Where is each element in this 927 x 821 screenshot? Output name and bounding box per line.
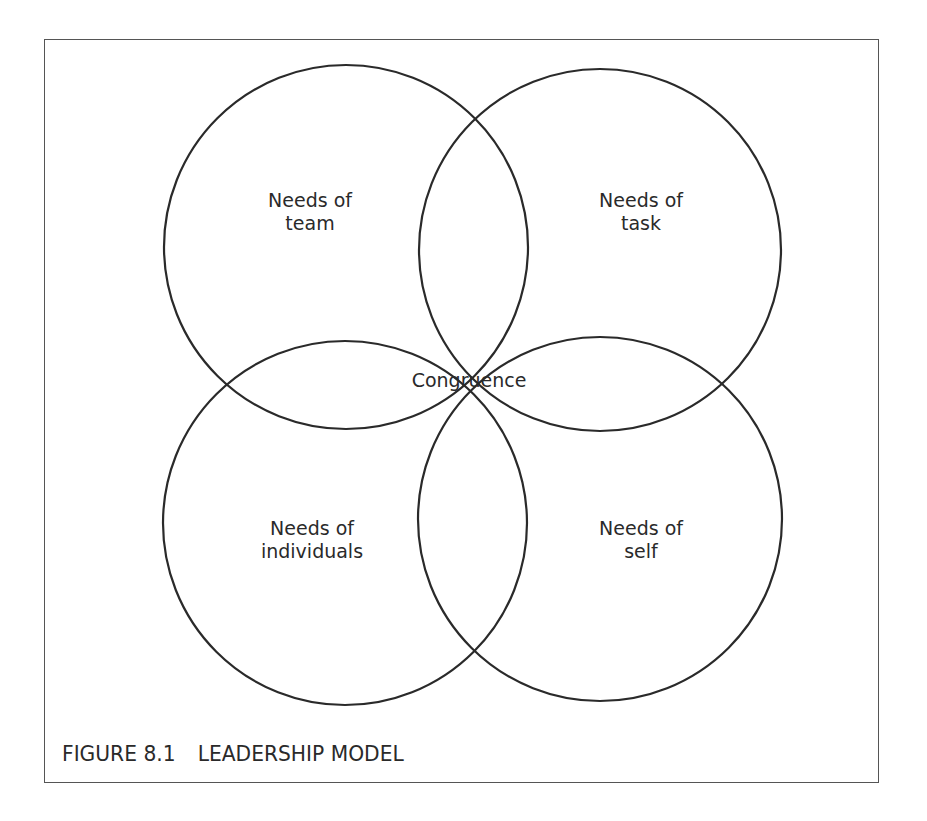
figure-title: LEADERSHIP MODEL — [198, 741, 404, 766]
label-task-line2: task — [599, 212, 683, 235]
label-self-line2: self — [599, 540, 683, 563]
label-self: Needs of self — [599, 517, 683, 563]
figure-caption: FIGURE 8.1LEADERSHIP MODEL — [62, 741, 426, 766]
label-individuals-line1: Needs of — [261, 517, 363, 540]
label-self-line1: Needs of — [599, 517, 683, 540]
figure-number: FIGURE 8.1 — [62, 741, 176, 766]
label-team-line1: Needs of — [268, 189, 352, 212]
leadership-venn-diagram — [0, 0, 927, 821]
label-individuals: Needs of individuals — [261, 517, 363, 563]
label-team-line2: team — [268, 212, 352, 235]
label-team: Needs of team — [268, 189, 352, 235]
label-task: Needs of task — [599, 189, 683, 235]
label-task-line1: Needs of — [599, 189, 683, 212]
label-individuals-line2: individuals — [261, 540, 363, 563]
center-label-congruence: Congruence — [412, 369, 527, 392]
